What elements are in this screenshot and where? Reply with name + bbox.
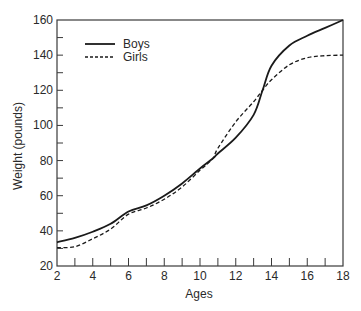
legend-label-boys: Boys [123, 37, 150, 51]
x-tick-label: 14 [265, 269, 279, 283]
y-tick-label: 160 [33, 13, 53, 27]
x-tick-label: 16 [301, 269, 315, 283]
x-axis-title: Ages [185, 287, 212, 301]
y-tick-label: 40 [40, 224, 54, 238]
x-axis-ticks: 24681012141618 [54, 258, 350, 283]
x-tick-label: 2 [54, 269, 61, 283]
series-boys-line [57, 20, 343, 242]
x-tick-label: 6 [125, 269, 132, 283]
series-girls-line [57, 55, 343, 247]
x-tick-label: 10 [193, 269, 207, 283]
y-axis-ticks: 20406080100120140160 [33, 13, 63, 273]
x-tick-label: 8 [161, 269, 168, 283]
y-tick-label: 140 [33, 48, 53, 62]
x-tick-label: 18 [336, 269, 350, 283]
y-tick-label: 80 [40, 154, 54, 168]
y-tick-label: 60 [40, 189, 54, 203]
weight-by-age-chart: 24681012141618 20406080100120140160 Boys… [0, 0, 361, 311]
legend-label-girls: Girls [123, 50, 148, 64]
y-tick-label: 100 [33, 118, 53, 132]
y-tick-label: 120 [33, 83, 53, 97]
data-series [57, 20, 343, 248]
y-axis-title: Weight (pounds) [11, 102, 25, 190]
x-tick-label: 12 [229, 269, 243, 283]
legend: BoysGirls [85, 37, 150, 64]
y-tick-label: 20 [40, 259, 54, 273]
x-tick-label: 4 [89, 269, 96, 283]
